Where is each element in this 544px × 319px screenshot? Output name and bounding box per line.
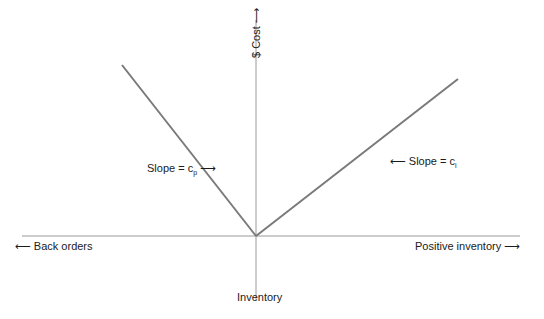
arrow-right-icon: ⟶ [250, 7, 262, 23]
positive-inventory-label: Positive inventory ⟶ [415, 240, 520, 253]
arrow-left-icon: ⟵ [15, 240, 31, 252]
backorders-text: Back orders [34, 240, 93, 252]
y-axis-label: $ Cost ⟶ [250, 7, 263, 58]
backorders-label: ⟵ Back orders [15, 240, 93, 253]
positive-inventory-text: Positive inventory [415, 240, 501, 252]
slope-backorder-annotation: Slope = cp ⟶ [147, 162, 216, 176]
inventory-axis-label: Inventory [237, 291, 282, 303]
slope-subscript: p [193, 169, 197, 176]
slope-holding-annotation: ⟵ Slope = ci [390, 155, 457, 169]
slope-label: Slope = c [409, 155, 455, 167]
arrow-right-icon: ⟶ [504, 240, 520, 252]
slope-label: Slope = c [147, 162, 193, 174]
arrow-right-icon: ⟶ [200, 162, 216, 174]
backorder-cost-line [122, 65, 256, 236]
slope-subscript: i [455, 162, 457, 169]
arrow-left-icon: ⟵ [390, 155, 406, 167]
cost-function-diagram [0, 0, 544, 319]
y-axis-label-text: $ Cost [250, 26, 262, 58]
